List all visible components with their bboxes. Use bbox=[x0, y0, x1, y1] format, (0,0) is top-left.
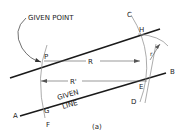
given-line-ab bbox=[20, 73, 166, 116]
label-e: E bbox=[139, 83, 143, 91]
label-r-prime: R' bbox=[70, 78, 77, 86]
label-b: B bbox=[170, 68, 175, 76]
label-h: H bbox=[139, 26, 144, 34]
label-c: C bbox=[127, 11, 132, 19]
label-given-line-2: LINE bbox=[61, 99, 78, 111]
parallel-line-construction-diagram: R R' r GIVEN POINT P C H A B E D G F GIV… bbox=[0, 0, 187, 137]
given-point-leader bbox=[18, 18, 41, 62]
label-g: G bbox=[44, 107, 49, 115]
label-p: P bbox=[44, 53, 48, 61]
label-given-point: GIVEN POINT bbox=[28, 14, 74, 22]
r-arrow-right bbox=[134, 59, 140, 63]
leader-arrowhead bbox=[35, 58, 41, 62]
parallel-line bbox=[10, 29, 160, 78]
label-r: R bbox=[88, 58, 93, 66]
label-f: F bbox=[46, 121, 50, 129]
rprime-arrow-left bbox=[41, 79, 47, 83]
label-a: A bbox=[13, 112, 18, 120]
label-d: D bbox=[131, 98, 136, 106]
figure-caption: (a) bbox=[92, 123, 102, 131]
